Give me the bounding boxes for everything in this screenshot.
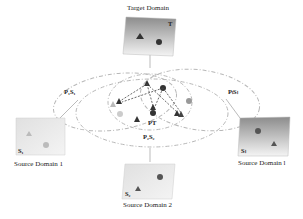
projection-label-l: PₗSₗ (228, 88, 238, 96)
target-symbol: T (168, 20, 172, 27)
source-domain-1-title: Source Domain 1 (14, 160, 63, 168)
center-label-pt: PT (148, 119, 156, 126)
source-l-symbol: Sₗ (241, 147, 246, 155)
source-1-symbol: S₁ (18, 147, 24, 154)
center-markers (110, 80, 192, 122)
domain-adaptation-diagram (0, 0, 303, 219)
source-domain-2-title: Source Domain 2 (123, 201, 172, 209)
projection-label-1: P₁S₁ (64, 88, 75, 95)
source-domain-l-title: Source Domain l (238, 159, 285, 167)
source-2-symbol: S₂ (125, 190, 131, 197)
source-domain-l-box (238, 117, 290, 156)
projection-ellipse-1 (50, 66, 181, 139)
projection-label-2: P₂S₂ (143, 133, 154, 140)
target-domain-title: Target Domain (127, 4, 169, 12)
